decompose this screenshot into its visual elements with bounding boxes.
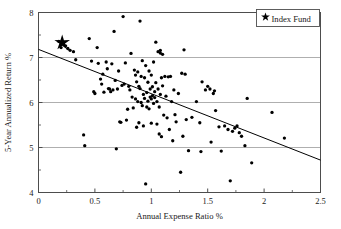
chart-canvas: 4567800.511.522.5Annual Expense Ratio %5… (0, 0, 341, 229)
data-point (155, 122, 158, 125)
ytick-label-4: 4 (29, 188, 34, 198)
data-point (111, 88, 114, 91)
data-point (190, 116, 193, 119)
data-point (99, 77, 102, 80)
data-point (283, 136, 286, 139)
data-point (238, 131, 241, 134)
data-point (150, 122, 153, 125)
data-point (154, 81, 157, 84)
data-point (152, 60, 155, 63)
data-point (165, 116, 168, 119)
data-point (199, 150, 202, 153)
data-point (235, 124, 238, 127)
data-point (169, 75, 172, 78)
data-point (134, 97, 137, 100)
data-point (156, 87, 159, 90)
data-point (206, 85, 209, 88)
data-point (150, 97, 153, 100)
data-point (136, 70, 139, 73)
data-point (110, 62, 113, 65)
data-point (90, 59, 93, 62)
data-point (159, 93, 162, 96)
data-point (127, 85, 130, 88)
data-point (88, 37, 91, 40)
data-point (246, 97, 249, 100)
data-point (82, 133, 85, 136)
xtick-label-2: 2 (262, 196, 266, 206)
data-point (138, 87, 141, 90)
data-point (198, 121, 201, 124)
data-point (72, 50, 75, 53)
data-point (116, 87, 119, 90)
data-point (220, 149, 223, 152)
data-point (119, 121, 122, 124)
regression-line (39, 49, 321, 160)
data-point (170, 100, 173, 103)
data-point (153, 90, 156, 93)
data-point (250, 161, 253, 164)
data-point (143, 97, 146, 100)
data-point (121, 15, 124, 18)
y-axis-title: 5-Year Annualized Return % (3, 53, 13, 152)
data-point (114, 79, 117, 82)
data-point (214, 109, 217, 112)
data-point (173, 113, 176, 116)
data-point (145, 91, 148, 94)
data-point (138, 19, 141, 22)
data-point (183, 73, 186, 76)
data-point (112, 30, 115, 33)
data-point (174, 120, 177, 123)
legend-label-index-fund: Index Fund (272, 14, 312, 24)
data-point (161, 53, 164, 56)
data-point (144, 64, 147, 67)
data-point (130, 95, 133, 98)
xtick-label-1.5: 1.5 (202, 196, 213, 206)
data-point (102, 91, 105, 94)
data-point (223, 124, 226, 127)
data-point (177, 92, 180, 95)
data-point (213, 89, 216, 92)
data-point (179, 171, 182, 174)
data-point (209, 140, 212, 143)
ytick-label-7: 7 (29, 53, 33, 63)
data-point (160, 76, 163, 79)
data-point (124, 61, 127, 64)
data-point (105, 60, 108, 63)
data-point (200, 80, 203, 83)
data-point (135, 80, 138, 83)
ytick-label-6: 6 (29, 98, 33, 108)
data-point (160, 135, 163, 138)
data-point (137, 121, 140, 124)
ytick-label-5: 5 (29, 143, 33, 153)
data-point (195, 100, 198, 103)
data-point (133, 68, 136, 71)
data-point (142, 93, 145, 96)
data-point (147, 69, 150, 72)
data-point (101, 73, 104, 76)
data-point (134, 73, 137, 76)
data-point (136, 100, 139, 103)
xtick-label-0: 0 (36, 196, 40, 206)
data-point (125, 118, 128, 121)
data-point (106, 67, 109, 70)
xtick-label-2.5: 2.5 (315, 196, 326, 206)
data-point (83, 144, 86, 147)
data-point (158, 105, 161, 108)
data-point (270, 111, 273, 114)
data-point (172, 88, 175, 91)
data-point (204, 88, 207, 91)
xtick-label-0.5: 0.5 (90, 196, 101, 206)
data-point (171, 139, 174, 142)
data-point (123, 82, 126, 85)
data-point (96, 46, 99, 49)
data-point (140, 75, 143, 78)
data-point (143, 76, 146, 79)
data-point (150, 73, 153, 76)
data-point (147, 107, 150, 110)
data-point (142, 124, 145, 127)
data-point (168, 128, 171, 131)
data-point (141, 59, 144, 62)
data-point (161, 84, 164, 87)
data-point (162, 113, 165, 116)
data-point (187, 149, 190, 152)
